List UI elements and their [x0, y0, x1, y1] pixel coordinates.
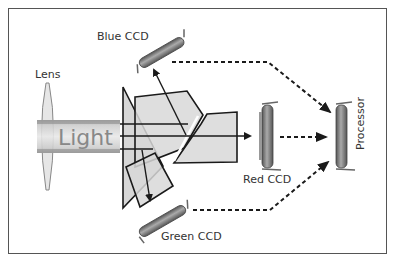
processor-label: Processor	[354, 97, 367, 150]
blue-ccd-label: Blue CCD	[97, 30, 149, 43]
prism-assembly	[123, 87, 237, 208]
red-ccd-label: Red CCD	[243, 173, 291, 186]
green-ccd-label: Green CCD	[161, 230, 222, 243]
red-ccd	[259, 102, 281, 170]
three-ccd-diagram: Light Blue CCD Red CCD	[0, 0, 399, 270]
lens-label: Lens	[35, 68, 61, 81]
light-label: Light	[58, 125, 113, 150]
processor	[336, 102, 355, 170]
